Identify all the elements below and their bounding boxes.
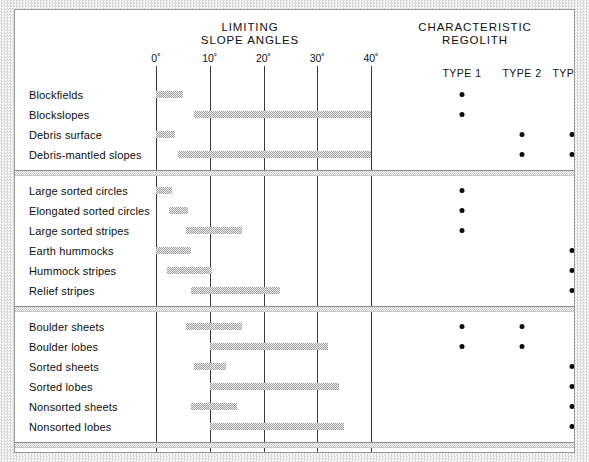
group-separator <box>15 442 575 448</box>
characteristic-regolith-title: CHARACTERISTIC REGOLITH <box>375 21 575 46</box>
row-label: Hummock stripes <box>29 264 116 278</box>
row-label: Debris surface <box>29 128 102 142</box>
axis-tick-label-10: 10˚ <box>202 52 217 64</box>
chart-row: Boulder lobes <box>15 338 575 356</box>
regolith-column-header-2: TYPE 2 <box>502 67 541 79</box>
axis-tick-label-40: 40˚ <box>363 52 378 64</box>
slope-range-bar <box>156 187 172 194</box>
regolith-dot-type-1 <box>460 228 465 233</box>
chart-row: Debris-mantled slopes <box>15 146 575 164</box>
slope-range-bar <box>194 363 226 370</box>
regolith-dot-type-1 <box>460 208 465 213</box>
regolith-dot-type-3 <box>570 288 575 293</box>
row-label: Nonsorted lobes <box>29 420 111 434</box>
row-label: Blockfields <box>29 88 83 102</box>
row-label: Sorted sheets <box>29 360 99 374</box>
chart-row: Blockslopes <box>15 106 575 124</box>
limiting-slope-angles-title: LIMITING SLOPE ANGLES <box>135 21 365 46</box>
slope-range-bar <box>167 267 213 274</box>
regolith-dot-type-3 <box>570 424 575 429</box>
regolith-dot-type-2 <box>520 152 525 157</box>
figure-plate: LIMITING SLOPE ANGLES CHARACTERISTIC REG… <box>14 9 575 453</box>
row-label: Boulder sheets <box>29 320 104 334</box>
chart-row: Hummock stripes <box>15 262 575 280</box>
chart-row: Relief stripes <box>15 282 575 300</box>
chart-row: Sorted lobes <box>15 378 575 396</box>
regolith-dot-type-3 <box>570 132 575 137</box>
slope-range-bar <box>210 423 344 430</box>
slope-range-bar <box>156 131 175 138</box>
regolith-dot-type-1 <box>460 92 465 97</box>
chart-row: Debris surface <box>15 126 575 144</box>
axis-tick-label-20: 20˚ <box>256 52 271 64</box>
regolith-column-header-3: TYPE 3 <box>552 67 575 79</box>
regolith-dot-type-2 <box>520 132 525 137</box>
regolith-dot-type-2 <box>520 324 525 329</box>
chart-row: Large sorted circles <box>15 182 575 200</box>
slope-range-bar <box>210 383 339 390</box>
chart-row: Elongated sorted circles <box>15 202 575 220</box>
slope-range-bar <box>156 91 183 98</box>
regolith-dot-type-3 <box>570 384 575 389</box>
chart-row: Nonsorted lobes <box>15 418 575 436</box>
slope-range-bar <box>186 323 242 330</box>
regolith-dot-type-1 <box>460 344 465 349</box>
regolith-dot-type-3 <box>570 364 575 369</box>
row-label: Nonsorted sheets <box>29 400 118 414</box>
regolith-dot-type-3 <box>570 152 575 157</box>
chart-row: Blockfields <box>15 86 575 104</box>
slope-range-bar <box>186 227 242 234</box>
chart-row: Boulder sheets <box>15 318 575 336</box>
regolith-dot-type-1 <box>460 324 465 329</box>
slope-range-bar <box>169 207 188 214</box>
axis-tick-label-0: 0˚ <box>151 52 160 64</box>
axis-tick-label-30: 30˚ <box>310 52 325 64</box>
chart-row: Large sorted stripes <box>15 222 575 240</box>
slope-range-bar <box>191 287 280 294</box>
regolith-dot-type-3 <box>570 248 575 253</box>
regolith-dot-type-1 <box>460 112 465 117</box>
slope-range-bar <box>156 247 191 254</box>
group-separator <box>15 306 575 312</box>
chart-row: Nonsorted sheets <box>15 398 575 416</box>
regolith-dot-type-3 <box>570 404 575 409</box>
group-separator <box>15 170 575 176</box>
row-label: Debris-mantled slopes <box>29 148 142 162</box>
slope-range-bar <box>191 403 237 410</box>
regolith-column-header-1: TYPE 1 <box>442 67 481 79</box>
row-label: Large sorted circles <box>29 184 128 198</box>
row-label: Elongated sorted circles <box>29 204 150 218</box>
row-label: Sorted lobes <box>29 380 93 394</box>
regolith-dot-type-1 <box>460 188 465 193</box>
regolith-dot-type-3 <box>570 268 575 273</box>
slope-range-bar <box>210 343 328 350</box>
slope-range-bar <box>194 111 371 118</box>
chart-row: Sorted sheets <box>15 358 575 376</box>
row-label: Large sorted stripes <box>29 224 129 238</box>
chart-row: Earth hummocks <box>15 242 575 260</box>
slope-range-bar <box>178 151 372 158</box>
row-label: Relief stripes <box>29 284 95 298</box>
row-label: Earth hummocks <box>29 244 114 258</box>
figure-root: LIMITING SLOPE ANGLES CHARACTERISTIC REG… <box>0 0 589 462</box>
row-label: Blockslopes <box>29 108 89 122</box>
regolith-dot-type-2 <box>520 344 525 349</box>
row-label: Boulder lobes <box>29 340 98 354</box>
